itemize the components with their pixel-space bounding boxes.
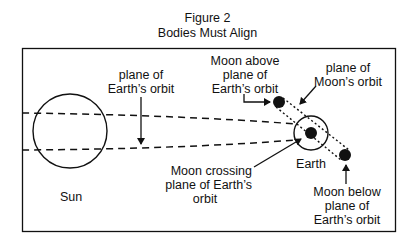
label-plane-earth-orbit: plane of Earth’s orbit: [105, 68, 177, 96]
label-line: plane of: [206, 68, 284, 82]
label-line: Moon above: [206, 54, 284, 68]
moon-orbit-line-b: [283, 98, 349, 150]
label-line: orbit: [158, 192, 252, 206]
label-moon-crossing: Moon crossing plane of Earth’s orbit: [158, 164, 252, 206]
sun-circle: [33, 94, 107, 168]
label-line: plane of: [105, 68, 177, 82]
label-earth: Earth: [291, 157, 331, 171]
label-line: Moon crossing: [158, 164, 252, 178]
label-moon-above: Moon above plane of Earth’s orbit: [206, 54, 284, 96]
label-line: Moon below: [310, 185, 384, 199]
label-line: plane of: [310, 199, 384, 213]
moon-below-dot: [339, 149, 351, 161]
label-sun: Sun: [56, 190, 86, 204]
label-line: plane of: [310, 61, 386, 75]
label-line: Earth’s orbit: [310, 213, 384, 227]
moon-above-dot: [273, 96, 285, 108]
earth-moon-crossing-dot: [305, 127, 317, 139]
label-line: plane of Earth’s: [158, 178, 252, 192]
label-line: Moon’s orbit: [310, 75, 386, 89]
label-moon-below: Moon below plane of Earth’s orbit: [310, 185, 384, 227]
label-line: Earth’s orbit: [105, 82, 177, 96]
label-plane-moon-orbit: plane of Moon’s orbit: [310, 61, 386, 89]
label-line: Earth’s orbit: [206, 82, 284, 96]
